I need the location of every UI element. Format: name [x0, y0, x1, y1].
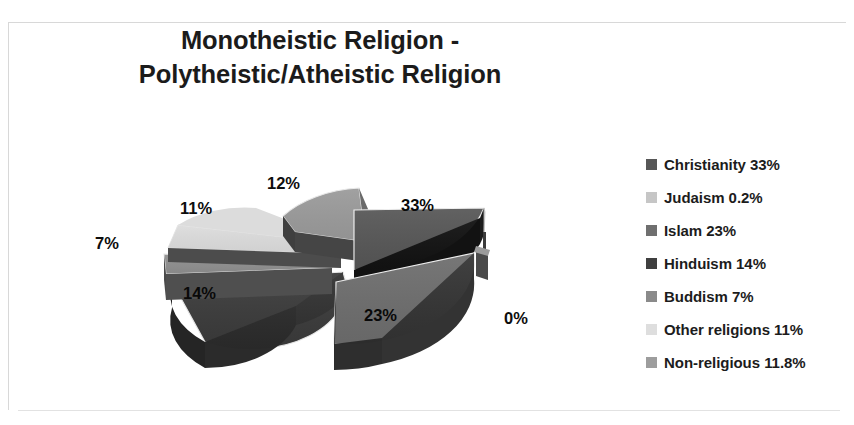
legend-swatch-icon [646, 258, 657, 269]
legend-label: Other religions 11% [664, 321, 803, 338]
chart-title-line-2: Polytheistic/Atheistic Religion [0, 58, 640, 92]
legend-item-other-religions[interactable]: Other religions 11% [646, 313, 850, 346]
legend-item-christianity[interactable]: Christianity 33% [646, 148, 850, 181]
legend-swatch-icon [646, 324, 657, 335]
legend-label: Islam 23% [664, 222, 736, 239]
legend-item-hinduism[interactable]: Hinduism 14% [646, 247, 850, 280]
pie-label-other-religions: 11% [180, 200, 212, 217]
slide-border-bottom [18, 410, 840, 411]
legend-label: Buddism 7% [664, 288, 754, 305]
pie-label-judaism: 0% [504, 310, 528, 327]
chart-legend: Christianity 33% Judaism 0.2% Islam 23% … [646, 148, 850, 379]
legend-swatch-icon [646, 159, 657, 170]
pie-label-christianity: 33% [401, 197, 434, 214]
pie-label-hinduism: 14% [183, 285, 216, 302]
chart-page: Monotheistic Religion - Polytheistic/Ath… [0, 0, 854, 425]
pie-label-buddism: 7% [95, 235, 119, 252]
chart-title-line-1: Monotheistic Religion - [0, 24, 640, 58]
legend-swatch-icon [646, 192, 657, 203]
pie-label-non-religious: 12% [267, 175, 300, 192]
legend-label: Judaism 0.2% [664, 189, 763, 206]
slide-border-top [8, 22, 846, 23]
pie-label-islam: 23% [364, 307, 397, 324]
pie-chart-graphic [60, 120, 600, 390]
legend-swatch-icon [646, 225, 657, 236]
legend-label: Christianity 33% [664, 156, 780, 173]
legend-item-buddism[interactable]: Buddism 7% [646, 280, 850, 313]
chart-title: Monotheistic Religion - Polytheistic/Ath… [0, 24, 640, 92]
legend-item-non-religious[interactable]: Non-religious 11.8% [646, 346, 850, 379]
pie-plot-area: 7% 11% 12% 14% 33% 23% 0% [60, 120, 600, 390]
legend-label: Hinduism 14% [664, 255, 766, 272]
legend-swatch-icon [646, 291, 657, 302]
legend-item-judaism[interactable]: Judaism 0.2% [646, 181, 850, 214]
legend-swatch-icon [646, 357, 657, 368]
legend-label: Non-religious 11.8% [664, 354, 806, 371]
legend-item-islam[interactable]: Islam 23% [646, 214, 850, 247]
